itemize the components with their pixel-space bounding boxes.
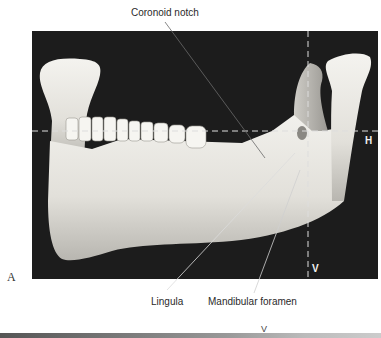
vertical-axis-label: V <box>312 263 319 274</box>
horizontal-axis-label: H <box>365 135 372 146</box>
lingula-label: Lingula <box>151 296 183 307</box>
coronoid-notch-label: Coronoid notch <box>131 7 199 18</box>
mandible-photo: H V <box>32 31 378 279</box>
bottom-vertical-axis-label: V <box>261 324 267 334</box>
next-panel-strip <box>0 333 381 338</box>
mandibular-foramen-label: Mandibular foramen <box>208 296 297 307</box>
panel-letter: A <box>7 270 16 285</box>
mandible-illustration <box>32 31 378 279</box>
